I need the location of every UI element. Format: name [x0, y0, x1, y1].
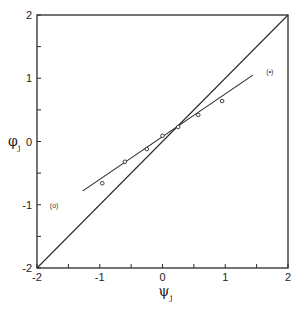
x-tick-label: -2 — [32, 271, 42, 283]
annotation-open: (o) — [50, 202, 59, 210]
x-axis-label: ψ j — [159, 283, 173, 302]
x-axis-label-sub: j — [169, 293, 172, 302]
data-point — [100, 181, 104, 185]
chart: -2-1012-2-1012 (o) (•) ψ j φ j — [0, 0, 304, 317]
data-point — [196, 113, 200, 117]
x-tick-label: -1 — [95, 271, 105, 283]
y-tick-label: -1 — [22, 199, 32, 211]
series-line — [37, 15, 288, 268]
data-point — [123, 160, 127, 164]
data-point — [145, 147, 149, 151]
y-tick-label: 0 — [26, 136, 32, 148]
x-tick-label: 0 — [159, 271, 165, 283]
y-axis-label-sub: j — [17, 143, 20, 152]
y-tick-label: -2 — [22, 262, 32, 274]
x-tick-label: 1 — [222, 271, 228, 283]
data-point — [176, 125, 180, 129]
series-line — [83, 75, 253, 191]
x-axis-label-main: ψ — [159, 283, 170, 299]
data-point — [220, 99, 224, 103]
y-axis-label: φ j — [8, 133, 20, 152]
y-tick-label: 2 — [26, 9, 32, 21]
x-tick-label: 2 — [285, 271, 291, 283]
y-axis-label-main: φ — [8, 133, 18, 149]
plot-lines — [37, 15, 288, 268]
annotation-filled: (•) — [266, 68, 273, 76]
y-tick-label: 1 — [26, 72, 32, 84]
data-point — [161, 134, 165, 138]
